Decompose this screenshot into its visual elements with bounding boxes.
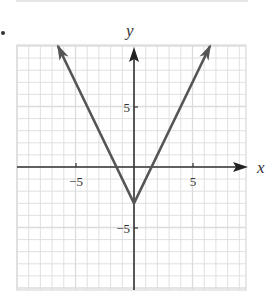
y-tick-label-neg5: −5 [116, 221, 130, 236]
graph: −5 5 5 −5 x y [0, 0, 280, 293]
y-tick-label-5: 5 [124, 100, 131, 115]
x-axis-label: x [256, 158, 265, 177]
y-axis-label: y [124, 21, 134, 40]
x-tick-label-neg5: −5 [69, 174, 83, 189]
x-tick-label-5: 5 [190, 174, 197, 189]
